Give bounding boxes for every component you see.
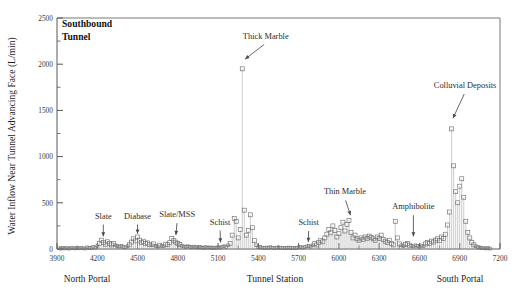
x-tick-label: 3900 [50,254,65,263]
x-tick-label: 5700 [291,254,306,263]
annotation-arrowhead [412,232,416,236]
y-tick-label: 2500 [38,14,53,23]
annotation-label: Schist [298,218,319,227]
annotation-label: Thick Marble [243,32,289,41]
north-portal-label: North Portal [64,274,111,284]
y-axis-ticks: 05001000150020002500 [38,14,63,254]
data-series-points [58,67,492,250]
geology-annotations: SlateDiabaseSlate/MSSSchistThick MarbleS… [95,32,496,242]
x-tick-label: 6000 [332,254,347,263]
annotation-label: Amphibolite [392,202,435,211]
y-tick-label: 500 [42,199,53,208]
annotation-label: Slate/MSS [159,210,195,219]
y-tick-label: 0 [49,245,53,254]
annotation-label: Diabase [124,212,151,221]
chart-figure: 05001000150020002500 3900420045004800510… [0,0,526,292]
x-tick-label: 5400 [251,254,266,263]
y-tick-label: 2000 [38,60,53,69]
panel-title-line1: Southbound [62,18,113,29]
water-inflow-scatter-chart: 05001000150020002500 3900420045004800510… [0,0,526,292]
annotation-arrowhead [136,229,140,233]
annotation-arrowhead [347,211,351,216]
x-tick-label: 6900 [452,254,467,263]
x-tick-label: 6600 [412,254,427,263]
x-tick-label: 6300 [372,254,387,263]
annotation-label: Slate [95,212,112,221]
x-tick-label: 7200 [493,254,508,263]
panel-title-line2: Tunnel [62,31,91,42]
x-tick-label: 4200 [90,254,105,263]
y-tick-label: 1500 [38,106,53,115]
annotation-arrowhead [174,231,178,235]
x-tick-label: 5100 [211,254,226,263]
x-axis-title: Tunnel Station [247,273,304,284]
south-portal-label: South Portal [437,274,484,284]
x-tick-label: 4500 [130,254,145,263]
y-axis-title: Water Inflow Near Tunnel Advancing Face … [6,37,18,234]
y-tick-label: 1000 [38,152,53,161]
annotation-arrowhead [307,238,311,242]
annotation-label: Thin Marble [324,187,366,196]
annotation-label: Colluvial Deposits [434,81,497,90]
annotation-arrowhead [218,238,222,242]
x-tick-label: 4800 [170,254,185,263]
annotation-arrowhead [101,232,105,236]
annotation-label: Schist [210,218,231,227]
